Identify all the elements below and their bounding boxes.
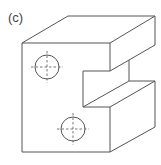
upper-right-face [110,16,155,71]
front-face-outline [22,43,110,152]
slot-floor-left-diagonal [83,81,129,107]
lower-right-face [110,81,155,152]
slot-floor-right-diagonal [110,81,155,107]
upper-hole [31,51,63,83]
isometric-block-drawing [0,0,161,165]
top-face [22,16,155,43]
lower-hole [57,113,89,145]
